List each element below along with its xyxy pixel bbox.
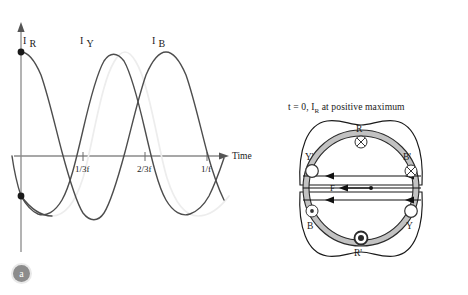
tick-label-two-thirds-f: 2/3f <box>137 164 152 174</box>
curve-label-ir-sub: R <box>30 38 37 49</box>
curve-label-iy: I Y <box>80 35 94 49</box>
pole-Y-prime-label: Y' <box>305 152 314 162</box>
curve-ib <box>12 156 52 216</box>
curve-ib-main <box>21 54 224 215</box>
flux-center-dot <box>369 186 373 190</box>
current-zero-icon-y <box>405 205 418 218</box>
y-axis <box>17 22 24 252</box>
marker-iy-ib-negative <box>18 193 25 200</box>
panel-label-a: a <box>13 265 30 282</box>
curve-label-iy-sub: Y <box>87 38 94 49</box>
three-phase-current-chart: I R I Y I B 1/3f 2/3f 1/f Time <box>0 0 260 295</box>
curve-label-ib-text: I <box>152 35 155 46</box>
panel-b-machine-diagram: t = 0, IR at positive maximum F R <box>255 0 468 295</box>
tick-label-one-over-f: 1/f <box>201 164 211 174</box>
rotating-field-diagram: F R Y' B' B Y <box>255 0 468 295</box>
pole-B-label: B <box>307 221 313 231</box>
pole-B-prime-label: B' <box>403 152 411 162</box>
pole-R-label: R <box>356 124 363 134</box>
curve-label-ir-text: I <box>23 35 26 46</box>
curve-label-ib-sub: B <box>159 38 166 49</box>
pole-Y-label: Y <box>406 221 413 231</box>
curve-label-iy-text: I <box>80 35 83 46</box>
marker-ir-positive-max <box>18 49 25 56</box>
flux-label: F <box>330 183 335 193</box>
tick-label-one-third-f: 1/3f <box>75 164 90 174</box>
x-axis <box>14 153 229 160</box>
curve-label-ib: I B <box>152 35 166 49</box>
x-axis-label: Time <box>232 151 252 161</box>
pole-R-prime-label: R' <box>354 248 362 258</box>
panel-a-waveform-chart: I R I Y I B 1/3f 2/3f 1/f Time a <box>0 0 260 295</box>
current-zero-icon <box>306 165 319 178</box>
curve-iy <box>21 52 229 216</box>
curve-ir <box>21 52 224 220</box>
curve-label-ir: I R <box>23 35 37 49</box>
